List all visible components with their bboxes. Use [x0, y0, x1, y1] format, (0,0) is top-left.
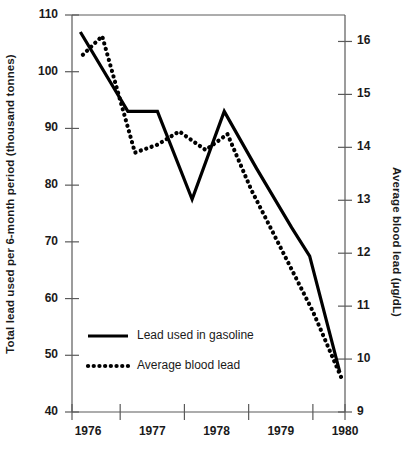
left-tick-label: 100 — [24, 64, 58, 78]
left-tick-label: 70 — [24, 234, 58, 248]
right-tick-label: 10 — [357, 351, 391, 365]
left-tick-label: 50 — [24, 347, 58, 361]
left-tick-label: 40 — [24, 404, 58, 418]
series-line — [80, 32, 340, 372]
lead-chart-figure: Total lead used per 6-month period (thou… — [0, 0, 407, 452]
legend-swatch-group — [88, 336, 128, 366]
x-tick-label: 1978 — [193, 424, 241, 438]
right-tick-label: 14 — [357, 139, 391, 153]
legend-label: Lead used in gasoline — [137, 328, 254, 342]
right-tick-label: 13 — [357, 192, 391, 206]
x-tick-label: 1976 — [64, 424, 112, 438]
legend-label: Average blood lead — [137, 358, 240, 372]
x-tick-label: 1979 — [257, 424, 305, 438]
plot-area — [0, 0, 407, 452]
left-tick-label: 80 — [24, 177, 58, 191]
x-tick-label: 1977 — [128, 424, 176, 438]
left-tick-label: 110 — [24, 7, 58, 21]
left-tick-label: 90 — [24, 120, 58, 134]
x-tick-label: 1980 — [321, 424, 369, 438]
right-tick-label: 12 — [357, 245, 391, 259]
left-tick-label: 60 — [24, 291, 58, 305]
right-tick-label: 16 — [357, 33, 391, 47]
right-tick-label: 9 — [357, 404, 391, 418]
right-tick-label: 11 — [357, 298, 391, 312]
right-tick-label: 15 — [357, 86, 391, 100]
